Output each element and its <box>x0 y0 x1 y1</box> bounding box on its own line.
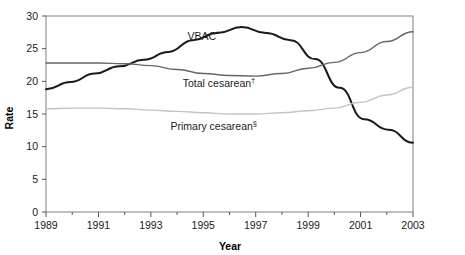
y-axis-title: Rate <box>3 106 15 129</box>
x-tick-label: 1999 <box>296 219 320 231</box>
y-tick-label: 30 <box>26 10 38 22</box>
y-tick-label: 20 <box>26 75 38 87</box>
y-tick-label: 25 <box>26 42 38 54</box>
series-label-2: Primary cesarean§ <box>171 119 257 132</box>
x-axis-ticks: 19891991199319951997199920012003 <box>34 212 425 231</box>
x-tick-label: 2001 <box>349 219 373 231</box>
x-tick-label: 1997 <box>244 219 268 231</box>
y-axis-ticks: 051015202530 <box>26 10 46 218</box>
y-tick-label: 5 <box>32 173 38 185</box>
y-tick-label: 10 <box>26 140 38 152</box>
x-tick-label: 2003 <box>401 219 425 231</box>
x-tick-label: 1989 <box>34 219 58 231</box>
x-tick-label: 1993 <box>139 219 163 231</box>
series-label-1: Total cesarean† <box>183 76 255 89</box>
x-tick-label: 1991 <box>87 219 111 231</box>
series-label-0: VBAC* <box>188 29 220 42</box>
chart-container: 051015202530 198919911993199519971999200… <box>0 0 465 255</box>
x-axis-title: Year <box>219 240 241 252</box>
rate-by-year-line-chart: 051015202530 198919911993199519971999200… <box>0 0 465 255</box>
series-line-1 <box>46 32 413 76</box>
series-line-2 <box>46 87 413 114</box>
x-tick-label: 1995 <box>192 219 216 231</box>
y-tick-label: 15 <box>26 108 38 120</box>
y-tick-label: 0 <box>32 206 38 218</box>
